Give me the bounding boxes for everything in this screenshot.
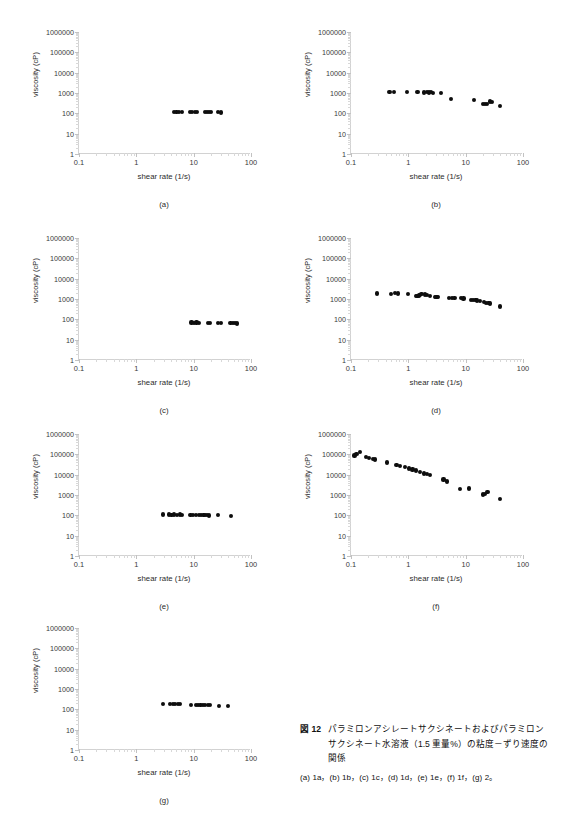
y-minor-tick [348, 281, 351, 282]
x-minor-tick [171, 359, 172, 362]
y-minor-tick [348, 485, 351, 486]
y-minor-tick [348, 243, 351, 244]
y-tick-d-6 [347, 238, 351, 239]
x-tick-label-g-3: 100 [245, 754, 257, 763]
x-minor-tick [171, 153, 172, 156]
x-minor-tick [396, 153, 397, 156]
y-minor-tick [76, 334, 79, 335]
x-tick-label-d-1: 1 [406, 364, 410, 373]
y-minor-tick [76, 677, 79, 678]
y-minor-tick [348, 518, 351, 519]
x-minor-tick [106, 749, 107, 752]
y-minor-tick [348, 79, 351, 80]
y-minor-tick [348, 136, 351, 137]
y-minor-tick [76, 642, 79, 643]
y-minor-tick [348, 305, 351, 306]
x-minor-tick [406, 153, 407, 156]
x-tick-c-2 [194, 359, 195, 363]
y-minor-tick [76, 140, 79, 141]
x-minor-tick [124, 555, 125, 558]
axes-a: 11010010001000010000010000000.1110100 [78, 32, 250, 154]
y-minor-tick [348, 81, 351, 82]
y-minor-tick [76, 630, 79, 631]
y-minor-tick [348, 542, 351, 543]
x-minor-tick [191, 749, 192, 752]
y-minor-tick [348, 344, 351, 345]
y-axis-title-b: viscosity (cP) [303, 20, 312, 130]
x-minor-tick [457, 153, 458, 156]
y-tick-g-3 [75, 689, 79, 690]
x-minor-tick [436, 359, 437, 362]
y-minor-tick [348, 246, 351, 247]
data-point [472, 98, 476, 102]
y-tick-label-e-4: 10000 [54, 470, 74, 479]
y-minor-tick [76, 497, 79, 498]
x-tick-d-0 [351, 359, 352, 363]
y-axis-title-d: viscosity (cP) [303, 226, 312, 336]
x-minor-tick [460, 555, 461, 558]
y-minor-tick [76, 302, 79, 303]
y-minor-tick [76, 445, 79, 446]
y-tick-c-2 [75, 319, 79, 320]
x-minor-tick [453, 359, 454, 362]
x-tick-label-a-2: 10 [190, 158, 198, 167]
panel-label-b: (b) [350, 200, 522, 209]
y-minor-tick [76, 98, 79, 99]
y-tick-b-5 [347, 52, 351, 53]
x-axis-title-d: shear rate (1/s) [350, 378, 522, 387]
y-minor-tick [76, 476, 79, 477]
data-point [485, 490, 489, 494]
y-tick-c-1 [75, 340, 79, 341]
axes-e: 11010010001000010000010000000.1110100 [78, 434, 250, 556]
y-minor-tick [348, 144, 351, 145]
x-tick-label-e-0: 0.1 [74, 560, 84, 569]
x-minor-tick [114, 749, 115, 752]
x-minor-tick [127, 749, 128, 752]
x-minor-tick [176, 749, 177, 752]
x-tick-label-b-3: 100 [517, 158, 529, 167]
data-point [498, 304, 502, 308]
data-point [219, 321, 223, 325]
x-minor-tick [453, 153, 454, 156]
y-minor-tick [76, 736, 79, 737]
y-tick-g-2 [75, 709, 79, 710]
y-minor-tick [348, 550, 351, 551]
y-minor-tick [76, 343, 79, 344]
y-tick-d-3 [347, 299, 351, 300]
x-minor-tick [248, 749, 249, 752]
y-tick-f-1 [347, 536, 351, 537]
x-minor-tick [124, 359, 125, 362]
y-minor-tick [76, 287, 79, 288]
y-minor-tick [76, 506, 79, 507]
y-minor-tick [76, 477, 79, 478]
x-tick-label-b-1: 1 [406, 158, 410, 167]
y-tick-a-2 [75, 113, 79, 114]
y-minor-tick [348, 489, 351, 490]
y-minor-tick [76, 266, 79, 267]
x-minor-tick [386, 359, 387, 362]
data-point [217, 704, 221, 708]
x-minor-tick [399, 153, 400, 156]
plot-area-f: viscosity (cP)11010010001000010000010000… [290, 424, 540, 589]
y-minor-tick [76, 634, 79, 635]
y-minor-tick [76, 503, 79, 504]
plot-panel-e: viscosity (cP)11010010001000010000010000… [18, 424, 268, 629]
y-minor-tick [348, 330, 351, 331]
y-minor-tick [348, 67, 351, 68]
y-tick-a-6 [75, 32, 79, 33]
x-minor-tick [221, 359, 222, 362]
y-minor-tick [76, 114, 79, 115]
y-minor-tick [76, 346, 79, 347]
y-minor-tick [348, 107, 351, 108]
x-minor-tick [242, 749, 243, 752]
x-minor-tick [119, 749, 120, 752]
y-minor-tick [348, 302, 351, 303]
data-point [406, 292, 410, 296]
data-point [209, 110, 213, 114]
y-minor-tick [76, 740, 79, 741]
x-minor-tick [493, 359, 494, 362]
x-minor-tick [403, 555, 404, 558]
y-minor-tick [348, 457, 351, 458]
x-minor-tick [426, 555, 427, 558]
x-tick-b-0 [351, 153, 352, 157]
